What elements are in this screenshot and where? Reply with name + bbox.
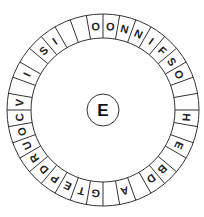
- ring-letter: E: [62, 179, 74, 193]
- center-letter: E: [97, 101, 108, 120]
- segment-divider: [86, 15, 90, 39]
- ring-letter: O: [106, 20, 116, 33]
- ring-letter: E: [172, 140, 186, 152]
- ring-letter: H: [180, 113, 193, 122]
- ring-letter: N: [119, 22, 130, 36]
- ring-letter: P: [48, 172, 61, 186]
- ring-letter: G: [91, 187, 101, 200]
- segment-divider: [174, 93, 198, 97]
- segment-divider: [116, 15, 120, 39]
- ring-letter: C: [13, 113, 26, 122]
- segment-divider: [70, 20, 78, 43]
- segment-divider: [171, 77, 194, 85]
- segment-divider: [86, 181, 90, 205]
- ring-letter: A: [119, 184, 130, 198]
- ring-letter: O: [172, 68, 187, 81]
- ring-letter: F: [156, 44, 169, 57]
- segment-divider: [13, 77, 36, 85]
- ring-letter: U: [20, 139, 34, 151]
- ring-letter: V: [13, 98, 26, 107]
- ring-letter: S: [37, 44, 51, 58]
- segment-divider: [116, 181, 120, 205]
- segment-divider: [171, 135, 194, 143]
- segment-divider: [8, 93, 32, 97]
- ring-letter: I: [21, 71, 33, 79]
- letter-wheel: ONNIFSOHEBDAGTEPDRUOCVISIO E: [0, 0, 204, 217]
- ring-letter: I: [50, 35, 59, 47]
- ring-letter: O: [15, 126, 29, 138]
- ring-letter: I: [146, 35, 155, 47]
- ring-letter: S: [165, 55, 179, 68]
- segment-divider: [8, 123, 32, 127]
- ring-letter: N: [132, 27, 144, 41]
- ring-letter: O: [91, 20, 101, 33]
- ring-letter: T: [76, 184, 86, 197]
- segment-divider: [174, 123, 198, 127]
